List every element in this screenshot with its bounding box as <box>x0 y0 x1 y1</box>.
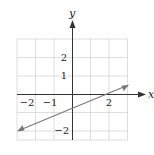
y-axis-arrow-icon <box>70 20 76 28</box>
tick-x-neg1: −1 <box>43 97 58 108</box>
tick-x-neg2: −2 <box>20 97 35 108</box>
x-axis-label: x <box>148 88 154 101</box>
tick-y-2: 2 <box>61 52 67 63</box>
tick-y-neg2: −2 <box>54 125 69 136</box>
coordinate-plot: x y −2 −1 2 2 1 −2 <box>0 0 154 155</box>
tick-y-1: 1 <box>61 70 67 81</box>
x-axis-arrow-icon <box>138 92 146 98</box>
y-axis-label: y <box>68 7 76 20</box>
line-arrow-start-icon <box>17 125 25 131</box>
tick-x-2: 2 <box>106 97 112 108</box>
